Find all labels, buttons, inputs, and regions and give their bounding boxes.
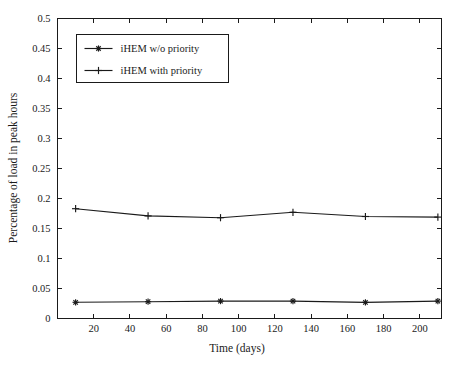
y-tick-label: 0.2 (37, 193, 50, 204)
x-axis-title: Time (days) (209, 342, 265, 355)
y-tick-label: 0.05 (32, 283, 50, 294)
x-tick-label: 200 (412, 323, 428, 334)
y-tick-label: 0.4 (37, 73, 51, 84)
y-tick-label: 0.1 (37, 253, 50, 264)
chart-figure: 20406080100120140160180200 00.050.10.150… (0, 0, 453, 368)
chart-legend: iHEM w/o priorityiHEM with priority (77, 35, 229, 83)
series-path (76, 209, 438, 218)
x-tick-label: 140 (303, 323, 319, 334)
y-tick-label: 0.5 (37, 13, 50, 24)
y-axis-tick-labels: 00.050.10.150.20.250.30.350.40.450.5 (32, 13, 51, 324)
x-tick-label: 60 (161, 323, 172, 334)
x-tick-label: 40 (125, 323, 136, 334)
y-tick-label: 0 (45, 313, 50, 324)
legend-label: iHEM with priority (121, 65, 203, 76)
line-chart: 20406080100120140160180200 00.050.10.150… (0, 0, 453, 368)
x-tick-label: 180 (376, 323, 392, 334)
x-axis-tick-labels: 20406080100120140160180200 (88, 323, 427, 334)
y-tick-label: 0.45 (32, 43, 50, 54)
series-path (76, 301, 438, 302)
y-tick-label: 0.25 (32, 163, 50, 174)
y-axis-title: Percentage of load in peak hours (7, 92, 20, 243)
y-tick-label: 0.15 (32, 223, 50, 234)
y-tick-label: 0.3 (37, 133, 50, 144)
x-tick-label: 80 (197, 323, 208, 334)
series-2 (72, 205, 441, 221)
data-series-layer (72, 205, 441, 305)
series-1 (73, 298, 441, 305)
x-tick-label: 20 (88, 323, 99, 334)
x-tick-label: 160 (339, 323, 355, 334)
y-tick-label: 0.35 (32, 103, 50, 114)
x-tick-label: 120 (267, 323, 283, 334)
legend-label: iHEM w/o priority (121, 43, 200, 54)
x-tick-label: 100 (231, 323, 247, 334)
